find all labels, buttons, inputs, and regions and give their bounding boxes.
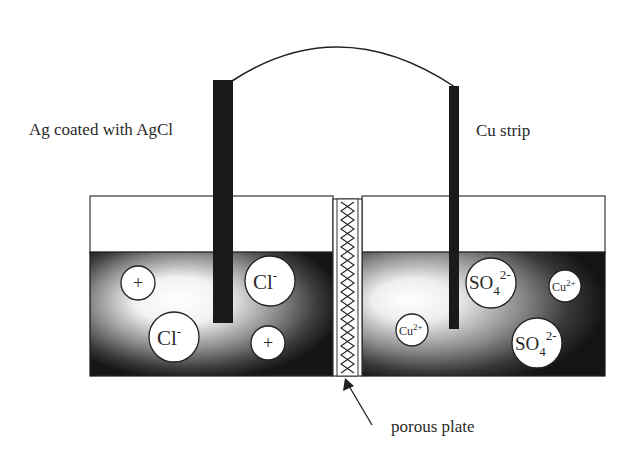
ion-sulfate-1: SO42- <box>466 258 516 308</box>
porous-plate-arrow <box>343 378 372 425</box>
left-beaker-top <box>90 196 333 253</box>
ion-sulfate-2: SO42- <box>512 318 562 368</box>
ion-chloride-1: Cl- <box>245 256 295 306</box>
svg-text:+: + <box>263 333 273 353</box>
label-left-electrode: Ag coated with AgCl <box>29 120 173 139</box>
ion-plus-2: + <box>251 326 285 360</box>
ion-plus-1: + <box>121 266 155 300</box>
right-beaker-top <box>362 196 605 253</box>
left-electrode-ag-agcl <box>213 80 233 323</box>
connecting-wire <box>232 47 455 87</box>
electrochemical-cell-diagram: + Cl- Cl- + SO42- Cu2+ Cu2+ <box>0 0 630 462</box>
ion-chloride-2: Cl- <box>149 312 199 362</box>
svg-text:+: + <box>133 273 143 293</box>
label-right-electrode: Cu strip <box>476 121 530 140</box>
ion-copper-1: Cu2+ <box>549 270 581 302</box>
ion-copper-2: Cu2+ <box>396 314 428 346</box>
label-porous-plate: porous plate <box>391 417 475 436</box>
porous-plate <box>333 199 362 376</box>
right-electrode-cu-strip <box>449 86 459 329</box>
